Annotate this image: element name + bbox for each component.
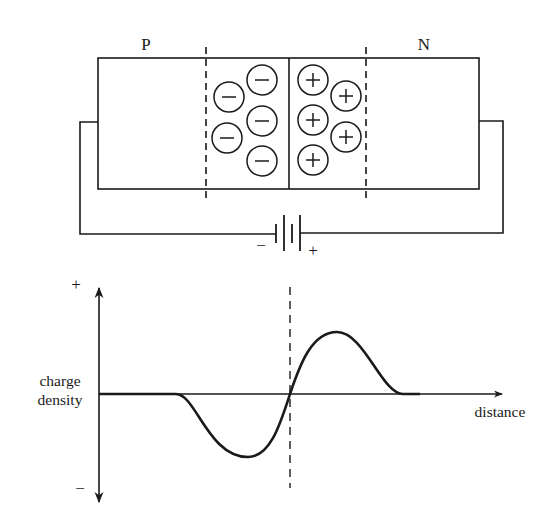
pn-junction-diagram: P N − + + − charge density d <box>0 0 559 525</box>
negative-ion-icon <box>247 106 277 136</box>
positive-ion-icon <box>331 122 361 152</box>
battery-negative-label: − <box>256 236 266 255</box>
negative-ion-icon <box>247 65 277 95</box>
negative-ion-icon <box>247 146 277 176</box>
y-minus-label: − <box>75 479 85 498</box>
positive-ions <box>298 65 361 175</box>
positive-ion-icon <box>331 81 361 111</box>
positive-ion-icon <box>298 145 328 175</box>
battery-icon <box>276 215 300 251</box>
positive-ion-icon <box>298 65 328 95</box>
positive-ion-icon <box>298 105 328 135</box>
circuit-wires <box>80 121 503 234</box>
y-axis-label-line2: density <box>38 391 83 408</box>
battery-positive-label: + <box>308 241 318 260</box>
negative-ion-icon <box>212 123 242 153</box>
negative-ions <box>212 65 277 176</box>
p-region-label: P <box>141 35 150 54</box>
y-plus-label: + <box>71 275 81 294</box>
negative-ion-icon <box>214 82 244 112</box>
semiconductor-block <box>98 47 479 201</box>
charge-density-graph <box>99 287 502 502</box>
n-region-label: N <box>418 35 430 54</box>
y-axis-label-line1: charge <box>39 372 80 389</box>
wire-left <box>80 122 276 234</box>
x-axis-label: distance <box>475 403 526 420</box>
